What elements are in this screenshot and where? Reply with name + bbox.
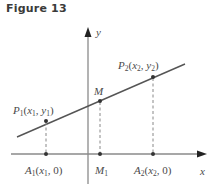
label-a1: A1(x1, 0) [24,164,63,178]
y-axis-arrow-icon [85,27,92,37]
point-a1 [44,152,48,156]
x-axis-label: x [199,165,205,177]
label-a2: A2(x2, 0) [133,164,172,178]
point-a2 [151,152,155,156]
label-p2: P2(x2, y2) [117,59,159,73]
y-axis-label: y [95,26,101,38]
label-p1: P1(x1, y1) [12,104,54,118]
label-m1: M1 [94,164,108,178]
coordinate-diagram: y x M P1(x1, y1) P2(x2, y2) A1(x1, 0) M1… [0,0,222,189]
label-m: M [93,85,104,97]
point-m [98,99,102,103]
point-p2 [151,75,155,79]
x-axis-arrow-icon [197,151,207,158]
point-p1 [44,119,48,123]
point-m1 [98,152,102,156]
